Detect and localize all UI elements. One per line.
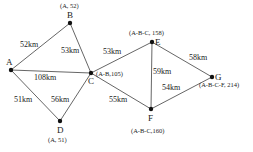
edge-label-a-d: 51km [14, 95, 33, 104]
node-label-b: B [67, 10, 73, 20]
edge-label-e-f: 59km [153, 67, 172, 76]
node-d [58, 119, 62, 123]
annotation-g: (A-B-C-F, 214) [199, 81, 239, 89]
annotation-b: (A, 52) [60, 2, 79, 10]
node-a [9, 68, 13, 72]
node-e [150, 40, 154, 44]
edge-c-e [91, 42, 152, 73]
annotation-d: (A, 51) [48, 136, 67, 144]
node-label-c: C [88, 76, 94, 86]
annotation-f: (A-B-C,160) [131, 127, 164, 135]
edge-label-c-e: 53km [103, 47, 122, 56]
annotation-c: (A-B,105) [96, 70, 123, 78]
node-label-a: A [6, 57, 13, 67]
edge-label-a-c: 108km [34, 73, 57, 82]
node-label-f: F [148, 113, 153, 123]
node-f [149, 107, 153, 111]
node-b [68, 21, 72, 25]
node-c [89, 71, 93, 75]
graph-diagram: 52km 53km 108km 51km 56km 53km 55km 59km… [0, 0, 253, 152]
node-label-d: D [57, 125, 64, 135]
edge-label-c-f: 55km [109, 95, 128, 104]
annotation-e: (A-B-C, 158) [129, 29, 164, 37]
node-label-e: E [155, 37, 161, 47]
edge-label-b-c: 53km [61, 46, 80, 55]
edge-label-a-b: 52km [20, 40, 39, 49]
node-g [210, 75, 214, 79]
edge-label-e-g: 58km [189, 53, 208, 62]
edge-e-f [151, 42, 152, 109]
node-annotations: (A, 52) (A-B,105) (A, 51) (A-B-C, 158) (… [48, 2, 239, 144]
edge-label-d-c: 56km [51, 95, 70, 104]
edge-label-f-g: 54km [162, 83, 181, 92]
